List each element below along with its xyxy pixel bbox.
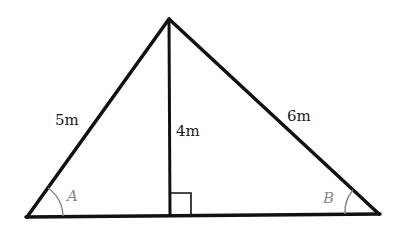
diagram-svg: 5m 4m 6m A B [0, 0, 403, 232]
angle-arc-a [48, 188, 63, 216]
side-base [26, 214, 380, 217]
label-altitude: 4m [176, 122, 200, 140]
label-right-side: 6m [287, 107, 311, 125]
angle-arc-b [345, 190, 353, 214]
triangle-diagram: 5m 4m 6m A B [0, 0, 403, 232]
label-angle-b: B [322, 189, 334, 207]
right-angle-marker [171, 193, 191, 215]
label-angle-a: A [65, 187, 78, 205]
altitude [169, 19, 170, 216]
side-left [27, 19, 169, 217]
side-right [169, 19, 379, 214]
label-left-side: 5m [55, 111, 79, 129]
